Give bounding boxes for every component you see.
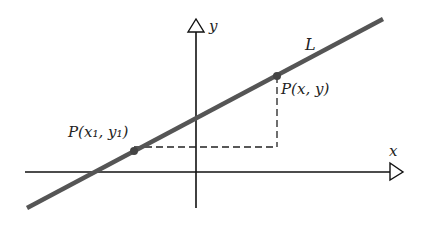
line-label: L <box>304 35 316 54</box>
point-p <box>273 72 281 80</box>
point-p1-label: P(x₁, y₁) <box>67 123 128 141</box>
y-axis-label: y <box>208 17 218 35</box>
x-axis-label: x <box>389 142 398 160</box>
coordinate-diagram: y x L P(x₁, y₁) P(x, y) <box>0 0 425 226</box>
point-p1 <box>130 147 138 155</box>
point-p-label: P(x, y) <box>280 80 329 98</box>
x-axis-arrow-icon <box>390 163 403 180</box>
line-L <box>27 19 383 208</box>
y-axis-arrow-icon <box>188 19 204 32</box>
